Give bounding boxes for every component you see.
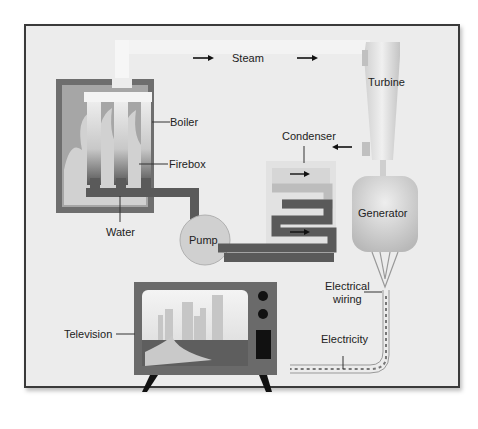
electricity-label: Electricity — [321, 333, 369, 345]
boiler — [59, 78, 198, 210]
water-label: Water — [106, 226, 135, 238]
electrical-wiring — [290, 252, 398, 373]
electrical-wiring-label-2: wiring — [332, 293, 362, 305]
steam-label: Steam — [232, 52, 264, 64]
turbine — [362, 42, 400, 178]
television — [134, 282, 277, 392]
electrical-wiring-label-1: Electrical — [325, 280, 370, 292]
condenser — [218, 161, 336, 260]
boiler-label: Boiler — [170, 116, 198, 128]
firebox-label: Firebox — [169, 158, 206, 170]
pump-label: Pump — [189, 234, 218, 246]
return-pipe — [224, 253, 334, 262]
turbine-label: Turbine — [368, 76, 405, 88]
generator-label: Generator — [358, 207, 408, 219]
condenser-label: Condenser — [282, 130, 336, 142]
power-plant-diagram: Steam Boiler Firebox Water Pump — [0, 0, 478, 429]
television-label: Television — [64, 328, 112, 340]
